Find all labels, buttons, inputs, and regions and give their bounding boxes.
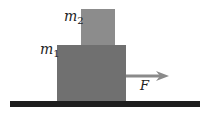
label-m2: m2 — [64, 9, 84, 26]
block-m1 — [57, 45, 126, 101]
block-m2 — [81, 9, 115, 45]
label-force: F — [140, 79, 149, 92]
label-m1: m1 — [40, 42, 60, 59]
floor-surface — [10, 101, 200, 107]
